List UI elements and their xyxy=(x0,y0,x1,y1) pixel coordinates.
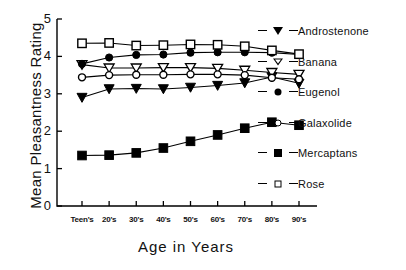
data-point-marker xyxy=(160,71,167,78)
legend-glyph xyxy=(273,58,283,65)
x-tick-label: 40's xyxy=(148,215,178,224)
legend-item-galaxolide[interactable]: Galaxolide xyxy=(258,108,404,139)
x-tick-label: Teen's xyxy=(67,215,97,224)
legend-item-label: Galaxolide xyxy=(298,117,352,129)
x-tick-label: 20's xyxy=(94,215,124,224)
legend-dash-left xyxy=(258,30,267,31)
data-point-marker xyxy=(241,72,248,79)
legend-glyph xyxy=(275,89,282,96)
x-tick-label: 70's xyxy=(230,215,260,224)
legend-dash-right xyxy=(289,122,298,123)
legend-dash-right xyxy=(289,91,298,92)
legend-dash-right xyxy=(289,61,298,62)
legend-glyph xyxy=(274,149,282,157)
data-point-marker xyxy=(186,40,194,48)
data-point-marker xyxy=(241,42,249,50)
data-point-marker xyxy=(78,39,86,47)
legend-dash-right xyxy=(289,30,298,31)
data-point-marker xyxy=(214,71,221,78)
legend-item-label: Banana xyxy=(298,56,337,68)
legend-glyph xyxy=(275,119,282,126)
data-point-marker xyxy=(214,49,221,56)
data-point-marker xyxy=(159,144,168,153)
y-tick-label: 4 xyxy=(29,48,51,63)
data-point-marker xyxy=(133,71,140,78)
legend-item-mercaptans[interactable]: Mercaptans xyxy=(258,138,404,169)
data-point-marker xyxy=(187,49,194,56)
chart-legend: AndrostenoneBananaEugenolGalaxolideMerca… xyxy=(258,16,404,199)
legend-dash-left xyxy=(258,61,267,62)
y-axis-label: Mean Pleasantness Rating xyxy=(27,1,44,231)
legend-marker-triangle-down-open-icon xyxy=(258,55,298,69)
x-axis-label: Age in Years xyxy=(56,238,316,255)
legend-dash-left xyxy=(258,152,267,153)
y-tick-label: 3 xyxy=(29,86,51,101)
legend-item-eugenol[interactable]: Eugenol xyxy=(258,77,404,108)
data-point-marker xyxy=(132,41,140,49)
legend-item-banana[interactable]: Banana xyxy=(258,47,404,78)
legend-marker-triangle-down-filled-icon xyxy=(258,24,298,38)
data-point-marker xyxy=(132,149,141,158)
x-tick-label: 50's xyxy=(176,215,206,224)
legend-glyph xyxy=(273,27,283,35)
data-point-marker xyxy=(77,93,87,102)
legend-item-label: Mercaptans xyxy=(298,147,357,159)
legend-item-label: Eugenol xyxy=(298,86,340,98)
legend-dash-left xyxy=(258,183,267,184)
legend-item-rose[interactable]: Rose xyxy=(258,169,404,200)
data-point-marker xyxy=(79,74,86,81)
y-tick-label: 1 xyxy=(29,161,51,176)
legend-dash-left xyxy=(258,91,267,92)
data-point-marker xyxy=(133,51,140,58)
data-point-marker xyxy=(187,71,194,78)
legend-item-androstenone[interactable]: Androstenone xyxy=(258,16,404,47)
data-point-marker xyxy=(106,54,113,61)
legend-glyph xyxy=(275,180,282,187)
data-point-marker xyxy=(105,39,113,47)
data-point-marker xyxy=(160,51,167,58)
legend-dash-left xyxy=(258,122,267,123)
chart-container: Mean Pleasantness Rating Age in Years 01… xyxy=(0,0,406,270)
legend-marker-square-open-icon xyxy=(258,177,298,191)
data-point-marker xyxy=(186,137,195,146)
data-point-marker xyxy=(159,41,167,49)
legend-marker-square-filled-icon xyxy=(258,146,298,160)
legend-marker-circle-filled-icon xyxy=(258,85,298,99)
x-tick-label: 60's xyxy=(203,215,233,224)
data-point-marker xyxy=(105,151,114,160)
legend-dash-right xyxy=(289,183,298,184)
y-tick-label: 0 xyxy=(29,198,51,213)
data-point-marker xyxy=(213,131,222,140)
data-point-marker xyxy=(106,72,113,79)
data-point-marker xyxy=(78,60,85,67)
data-point-marker xyxy=(78,151,87,160)
legend-dash-right xyxy=(289,152,298,153)
legend-item-label: Androstenone xyxy=(298,25,369,37)
data-point-marker xyxy=(213,41,221,49)
x-tick-label: 30's xyxy=(121,215,151,224)
y-tick-label: 2 xyxy=(29,123,51,138)
legend-marker-circle-open-icon xyxy=(258,116,298,130)
y-tick-label: 5 xyxy=(29,11,51,26)
x-tick-label: 90's xyxy=(284,215,314,224)
legend-item-label: Rose xyxy=(298,178,324,190)
x-tick-label: 80's xyxy=(257,215,287,224)
data-point-marker xyxy=(240,124,249,133)
